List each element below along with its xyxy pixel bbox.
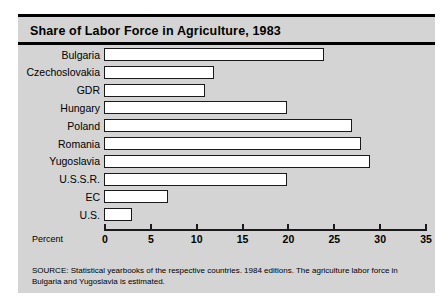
bar-row: Yugoslavia <box>104 155 425 168</box>
bar-category-label: Hungary <box>60 102 100 114</box>
source-note: SOURCE: Statistical yearbooks of the res… <box>32 266 418 287</box>
x-axis-tick <box>379 224 381 229</box>
bar-row: GDR <box>104 84 425 97</box>
x-axis-tick <box>333 224 335 229</box>
x-axis-tick <box>242 224 244 229</box>
x-axis-tick <box>196 224 198 229</box>
x-axis-tick-label: 25 <box>328 233 340 245</box>
bar <box>104 155 370 168</box>
bar <box>104 101 287 114</box>
bar-category-label: Yugoslavia <box>49 155 100 167</box>
bar-category-label: U.S.S.R. <box>59 173 100 185</box>
bar-category-label: EC <box>85 191 100 203</box>
title-band: Share of Labor Force in Agriculture, 198… <box>18 14 435 45</box>
x-axis-tick-label: 20 <box>283 233 295 245</box>
bar <box>104 190 168 203</box>
bar-row: Czechoslovakia <box>104 66 425 79</box>
bar-category-label: Bulgaria <box>61 49 100 61</box>
x-axis-tick <box>425 224 427 229</box>
x-axis-tick <box>150 224 152 229</box>
x-axis-tick <box>104 224 106 229</box>
bar <box>104 137 361 150</box>
bar-category-label: Poland <box>67 120 100 132</box>
bar-row: U.S.S.R. <box>104 173 425 186</box>
bar-category-label: U.S. <box>80 209 100 221</box>
bar <box>104 173 287 186</box>
plot-area: BulgariaCzechoslovakiaGDRHungaryPolandRo… <box>18 45 435 255</box>
bar-row: EC <box>104 190 425 203</box>
x-axis-tick-label: 15 <box>237 233 249 245</box>
bar-row: Romania <box>104 137 425 150</box>
bar <box>104 119 352 132</box>
bar <box>104 48 324 61</box>
bar-row: Hungary <box>104 101 425 114</box>
bar <box>104 208 132 221</box>
x-axis-tick-label: 30 <box>374 233 386 245</box>
x-axis-tick-label: 10 <box>191 233 203 245</box>
page-title: Share of Labor Force in Agriculture, 198… <box>30 24 281 38</box>
bar-category-label: Czechoslovakia <box>26 66 100 78</box>
x-axis-tick <box>287 224 289 229</box>
chart-figure: Share of Labor Force in Agriculture, 198… <box>18 14 435 293</box>
x-axis-tick-label: 0 <box>102 233 108 245</box>
bar-row: Bulgaria <box>104 48 425 61</box>
x-axis-line <box>104 229 427 231</box>
bar <box>104 66 214 79</box>
bar-row: U.S. <box>104 208 425 221</box>
bar-category-label: GDR <box>77 84 100 96</box>
x-axis-tick-label: 5 <box>148 233 154 245</box>
bar-category-label: Romania <box>58 138 100 150</box>
x-axis-label: Percent <box>32 234 63 244</box>
bar <box>104 84 205 97</box>
bar-row: Poland <box>104 119 425 132</box>
x-axis-tick-label: 35 <box>420 233 432 245</box>
